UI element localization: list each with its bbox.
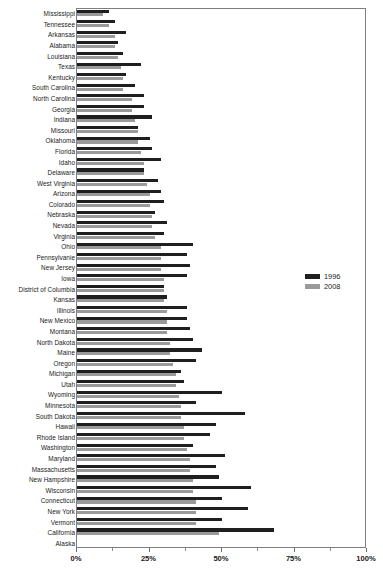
bar-1996 [77, 327, 190, 330]
category-label: Alaska [0, 539, 75, 546]
chart-row: Nevada [0, 220, 383, 231]
category-label: West Virginia [0, 179, 75, 186]
bar-group [77, 167, 366, 178]
category-label: Indiana [0, 116, 75, 123]
category-label: New York [0, 507, 75, 514]
bar-group [77, 188, 366, 199]
category-label: California [0, 529, 75, 536]
chart-row: Kentucky [0, 72, 383, 83]
bar-1996 [77, 486, 251, 489]
bar-1996 [77, 63, 141, 66]
bar-1996 [77, 295, 167, 298]
bar-2008 [77, 13, 103, 16]
bar-2008 [77, 183, 147, 186]
bar-2008 [77, 395, 179, 398]
chart-row: Connecticut [0, 495, 383, 506]
bar-2008 [77, 35, 115, 38]
bar-1996 [77, 168, 144, 171]
x-tick-label: 50% [213, 554, 228, 564]
chart-row: Oregon [0, 357, 383, 368]
bar-2008 [77, 426, 184, 429]
bar-group [77, 40, 366, 51]
bar-2008 [77, 448, 187, 451]
bar-group [77, 146, 366, 157]
chart-row: North Dakota [0, 336, 383, 347]
bar-group [77, 336, 366, 347]
category-label: Tennessee [0, 20, 75, 27]
legend-swatch-2008 [305, 284, 320, 289]
category-label: New Mexico [0, 317, 75, 324]
chart-row: Louisiana [0, 50, 383, 61]
bar-1996 [77, 370, 181, 373]
x-tick [76, 548, 77, 552]
bar-group [77, 252, 366, 263]
chart-row: New Hampshire [0, 474, 383, 485]
chart-row: North Carolina [0, 93, 383, 104]
x-tick [221, 548, 222, 552]
chart-row: Missouri [0, 124, 383, 135]
category-label: Massachusetts [0, 465, 75, 472]
chart-row: Illinois [0, 304, 383, 315]
bar-2008 [77, 204, 150, 207]
chart-row: South Dakota [0, 410, 383, 421]
bar-2008 [77, 246, 161, 249]
bar-2008 [77, 215, 152, 218]
x-tick [366, 548, 367, 552]
bar-group [77, 389, 366, 400]
x-axis-ticks [76, 548, 366, 553]
legend-item-2008: 2008 [305, 282, 365, 291]
bar-group [77, 230, 366, 241]
bar-group [77, 156, 366, 167]
bar-group [77, 442, 366, 453]
bar-2008 [77, 151, 141, 154]
chart-row: Florida [0, 146, 383, 157]
bar-group [77, 326, 366, 337]
chart-row: California [0, 527, 383, 538]
category-label: Wisconsin [0, 486, 75, 493]
chart-row: Tennessee [0, 19, 383, 30]
category-label: Virginia [0, 232, 75, 239]
x-tick [149, 548, 150, 552]
category-label: New Hampshire [0, 476, 75, 483]
bar-2008 [77, 225, 152, 228]
x-tick-label: 0% [71, 554, 82, 564]
bar-2008 [77, 373, 176, 376]
category-label: Texas [0, 63, 75, 70]
bar-group [77, 50, 366, 61]
category-label: Arkansas [0, 31, 75, 38]
bar-2008 [77, 257, 161, 260]
category-label: Colorado [0, 200, 75, 207]
bar-group [77, 135, 366, 146]
bar-group [77, 220, 366, 231]
bar-group [77, 484, 366, 495]
bar-2008 [77, 268, 161, 271]
bar-group [77, 527, 366, 538]
bar-group [77, 209, 366, 220]
bar-2008 [77, 469, 190, 472]
chart-row: Virginia [0, 230, 383, 241]
chart-row: Pennsylvanie [0, 252, 383, 263]
chart-row: Indiana [0, 114, 383, 125]
chart-row: Idaho [0, 156, 383, 167]
bar-group [77, 463, 366, 474]
bar-group [77, 516, 366, 527]
category-label: Connecticut [0, 497, 75, 504]
bar-1996 [77, 84, 135, 87]
category-label: Rhode Island [0, 433, 75, 440]
chart-legend: 1996 2008 [305, 272, 365, 292]
category-label: South Carolina [0, 84, 75, 91]
bar-1996 [77, 317, 187, 320]
bar-2008 [77, 342, 170, 345]
x-tick [185, 548, 186, 551]
bar-1996 [77, 190, 161, 193]
chart-row: Mississippi [0, 8, 383, 19]
chart-row: Vermont [0, 516, 383, 527]
chart-row: Minnesota [0, 400, 383, 411]
bar-1996 [77, 41, 118, 44]
chart-row: Montana [0, 326, 383, 337]
category-label: Minnesota [0, 402, 75, 409]
bar-2008 [77, 299, 164, 302]
bar-2008 [77, 162, 144, 165]
bar-1996 [77, 243, 193, 246]
bar-1996 [77, 454, 225, 457]
